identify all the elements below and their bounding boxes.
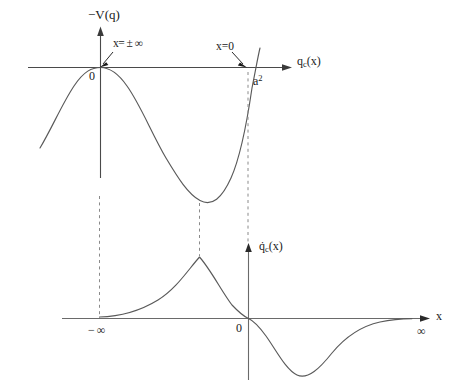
x-pm-infinity-arrow-shaft xyxy=(103,52,113,64)
annotation-x-zero: x=0 xyxy=(216,41,234,53)
upper-annotation-arrows xyxy=(100,52,248,68)
physics-figure: −V(q) qc(x) 0 x= ± ∞ x=0 a2 q̇c(x) x 0 −… xyxy=(0,0,462,391)
lower-right-limit-label: ∞ xyxy=(417,325,425,337)
upper-y-axis-label: −V(q) xyxy=(88,8,120,21)
upper-x-axis-label: qc(x) xyxy=(297,55,321,69)
instanton-velocity-curve xyxy=(100,257,413,376)
lower-x-axis-label: x xyxy=(436,310,442,322)
lower-panel-axes xyxy=(62,243,430,380)
upper-origin-label: 0 xyxy=(89,70,95,82)
lower-y-axis-label: q̇c(x) xyxy=(259,240,283,254)
lower-left-limit-label: − ∞ xyxy=(88,324,105,336)
annotation-x-pm-infinity: x= ± ∞ xyxy=(113,38,143,50)
upper-y-axis-arrowhead xyxy=(97,27,104,37)
lower-origin-label: 0 xyxy=(236,322,242,334)
dashed-connectors xyxy=(100,72,249,318)
lower-y-axis-label-arg: (x) xyxy=(269,239,283,253)
lower-x-axis-arrowhead xyxy=(420,315,430,322)
annotation-a-squared: a2 xyxy=(253,74,263,87)
upper-x-axis-arrowhead xyxy=(282,64,292,71)
upper-panel-axes xyxy=(28,27,292,179)
upper-x-axis-label-arg: (x) xyxy=(307,54,321,68)
figure-canvas xyxy=(0,0,462,391)
inverted-potential-curve xyxy=(40,48,260,203)
lower-y-axis-arrowhead xyxy=(245,243,252,252)
a-squared-exponent: 2 xyxy=(258,73,262,83)
x-zero-arrow-shaft xyxy=(232,52,243,64)
